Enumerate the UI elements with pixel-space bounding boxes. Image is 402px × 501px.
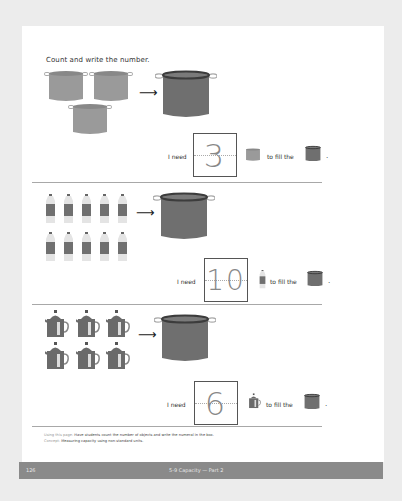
kettle-icon — [106, 310, 130, 338]
bottle-icon — [81, 194, 92, 224]
bottle-icon — [117, 232, 128, 262]
kettle-icon — [45, 342, 69, 370]
page-number: 126 — [26, 467, 36, 473]
concept-text: Measuring capacity using non-standard un… — [61, 439, 143, 443]
small-pot-icon — [89, 70, 133, 104]
kettle-icon — [45, 310, 69, 338]
using-label: Using this page: — [44, 433, 73, 437]
bottle-icon — [81, 232, 92, 262]
answer-box[interactable]: 3 — [193, 133, 237, 177]
need-label: I need — [177, 278, 196, 285]
section-divider — [32, 182, 322, 183]
fill-label: to fill the — [267, 153, 294, 160]
arrow-right-icon: ⟶ — [136, 208, 155, 218]
kettle-icon — [106, 342, 130, 370]
large-pot-icon — [155, 70, 217, 120]
answer-digit: 6 — [195, 385, 237, 423]
small-pot-icon — [44, 70, 88, 104]
large-pot-icon — [302, 393, 322, 411]
worksheet-page: Count and write the number. ⟶ I — [22, 26, 384, 462]
using-text: Have students count the number of object… — [74, 433, 214, 437]
section-divider — [32, 426, 322, 427]
kettle-icon — [76, 310, 100, 338]
bottle-icon — [45, 194, 56, 224]
page-footer: 126 5-9 Capacity — Part 2 — [19, 462, 383, 479]
small-pot-icon — [244, 147, 262, 163]
answer-digit: 10 — [205, 264, 247, 297]
answer-box[interactable]: 10 — [204, 258, 248, 302]
large-pot-icon — [305, 270, 325, 288]
small-pot-icon — [68, 103, 112, 137]
bottle-icon — [259, 270, 266, 289]
end-period: . — [325, 400, 327, 408]
large-pot-icon — [303, 145, 323, 163]
kettle-icon — [76, 342, 100, 370]
teacher-notes: Using this page: Have students count the… — [44, 432, 214, 444]
bottle-icon — [99, 232, 110, 262]
concept-note: Concept: Measuring capacity using non-st… — [44, 438, 214, 444]
fill-label: to fill the — [266, 401, 293, 408]
bottle-icon — [117, 194, 128, 224]
instruction-text: Count and write the number. — [46, 56, 150, 64]
section-divider — [32, 304, 322, 305]
bottle-grid — [45, 194, 135, 264]
bottle-icon — [99, 194, 110, 224]
bottle-icon — [63, 232, 74, 262]
need-label: I need — [167, 401, 186, 408]
bottle-icon — [63, 194, 74, 224]
footer-title: 5-9 Capacity — Part 2 — [169, 467, 223, 473]
kettle-icon — [248, 393, 261, 409]
kettle-grid — [45, 310, 135, 374]
answer-digit: 3 — [194, 137, 236, 175]
bottle-icon — [45, 232, 56, 262]
fill-label: to fill the — [270, 278, 297, 285]
end-period: . — [326, 152, 328, 160]
large-pot-icon — [154, 314, 216, 364]
need-label: I need — [168, 153, 187, 160]
large-pot-icon — [153, 192, 215, 242]
answer-box[interactable]: 6 — [194, 381, 238, 425]
concept-label: Concept: — [44, 439, 60, 443]
end-period: . — [328, 277, 330, 285]
